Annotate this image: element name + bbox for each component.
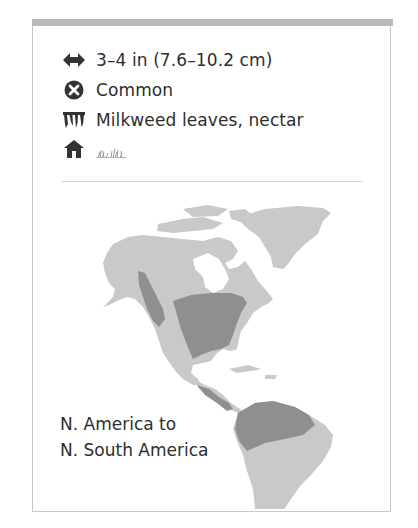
food-icon: [62, 110, 85, 130]
fact-row-food: Milkweed leaves, nectar: [62, 108, 304, 132]
food-text: Milkweed leaves, nectar: [96, 110, 304, 130]
habitat-house-icon: [62, 139, 85, 159]
wingspan-text: 3–4 in (7.6–10.2 cm): [96, 50, 272, 70]
wingspan-arrows-icon: [62, 50, 85, 70]
range-description: N. America to N. South America: [60, 411, 208, 463]
species-fact-card: 3–4 in (7.6–10.2 cm) Common Milkweed lea…: [32, 19, 391, 512]
divider: [62, 181, 363, 182]
fact-row-status: Common: [62, 78, 173, 102]
land-mass: [103, 205, 333, 509]
range-line-1: N. America to: [60, 411, 208, 437]
fact-row-habitat: [62, 137, 126, 161]
fact-row-wingspan: 3–4 in (7.6–10.2 cm): [62, 48, 272, 72]
status-text: Common: [96, 80, 173, 100]
card-top-bar: [32, 19, 393, 26]
status-common-icon: [62, 80, 85, 100]
range-line-2: N. South America: [60, 437, 208, 463]
grassland-icon: [96, 140, 126, 158]
